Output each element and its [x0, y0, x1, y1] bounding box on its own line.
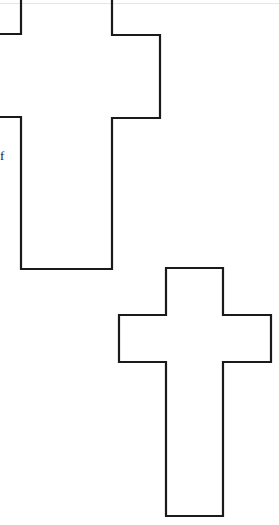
cross-outlines-figure	[0, 0, 279, 525]
upper-cross-outline	[0, 0, 160, 269]
lower-cross-outline	[119, 268, 271, 516]
